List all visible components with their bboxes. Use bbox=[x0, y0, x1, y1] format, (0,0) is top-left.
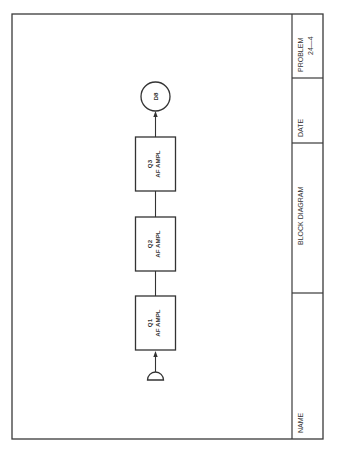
block-diagram-sheet: PROBLEM 24—4 DATE BLOCK DIAGRAM NAME Q1 … bbox=[0, 0, 339, 450]
stage-q3-function: AF AMPL bbox=[154, 150, 161, 177]
drawing-title: BLOCK DIAGRAM bbox=[297, 186, 304, 245]
date-label: DATE bbox=[297, 119, 304, 137]
arrowhead-icon bbox=[153, 351, 157, 357]
stage-q1-function: AF AMPL bbox=[154, 309, 161, 336]
output-d8-label: D8 bbox=[152, 92, 159, 100]
problem-number: 24—4 bbox=[307, 36, 314, 55]
stage-q1-block: Q1 AF AMPL bbox=[136, 296, 176, 350]
arrowhead-icon bbox=[153, 111, 157, 117]
stage-q2-function: AF AMPL bbox=[154, 230, 161, 257]
microphone-icon bbox=[148, 372, 164, 380]
stage-q2-block: Q2 AF AMPL bbox=[136, 217, 176, 271]
stage-q1-label: Q1 bbox=[146, 318, 153, 327]
stage-q3-label: Q3 bbox=[146, 159, 153, 168]
name-label: NAME bbox=[297, 412, 304, 433]
stage-q3-block: Q3 AF AMPL bbox=[136, 137, 176, 191]
output-d8-node: D8 bbox=[141, 82, 170, 111]
problem-label: PROBLEM bbox=[297, 38, 304, 72]
stage-q2-label: Q2 bbox=[146, 239, 153, 248]
problem-cell: PROBLEM 24—4 bbox=[297, 36, 314, 72]
